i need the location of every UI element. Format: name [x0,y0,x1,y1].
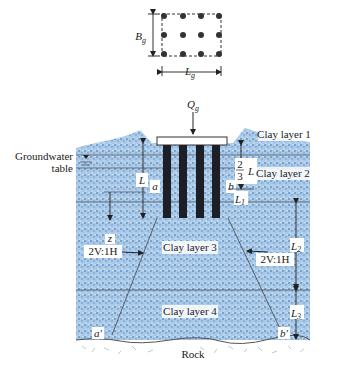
slope-right-label: 2V:1H [260,253,289,265]
layer-label-3: Clay layer 3 [163,241,217,253]
groundwater-label: Groundwater [15,150,73,162]
depth-z-label: z [107,232,113,244]
load-label: Qg [187,98,199,113]
layer-label-1: Clay layer 1 [257,128,311,140]
rock-label: Rock [181,348,205,360]
layer-label-4: Clay layer 4 [163,305,217,317]
lg-label: Lg [184,65,195,80]
pile-cap [157,137,227,145]
point-b-prime: b' [280,327,289,339]
pile-dots [161,13,222,57]
point-a: a [152,180,158,192]
plan-view: Bg Lg [135,13,222,80]
point-a-prime: a' [94,327,103,339]
pile-cap-outline [162,14,221,56]
svg-text:2: 2 [237,158,243,170]
svg-text:L: L [138,174,145,186]
slope-left-label: 2V:1H [88,245,117,257]
point-b: b [228,180,234,192]
layer-label-2: Clay layer 2 [256,167,310,179]
svg-text:table: table [52,162,73,174]
pile-group-diagram: Bg Lg Rock Qg Groundwater table L a [0,0,347,372]
bg-label: Bg [135,30,146,45]
svg-text:3: 3 [237,170,243,182]
svg-text:L: L [247,165,254,177]
